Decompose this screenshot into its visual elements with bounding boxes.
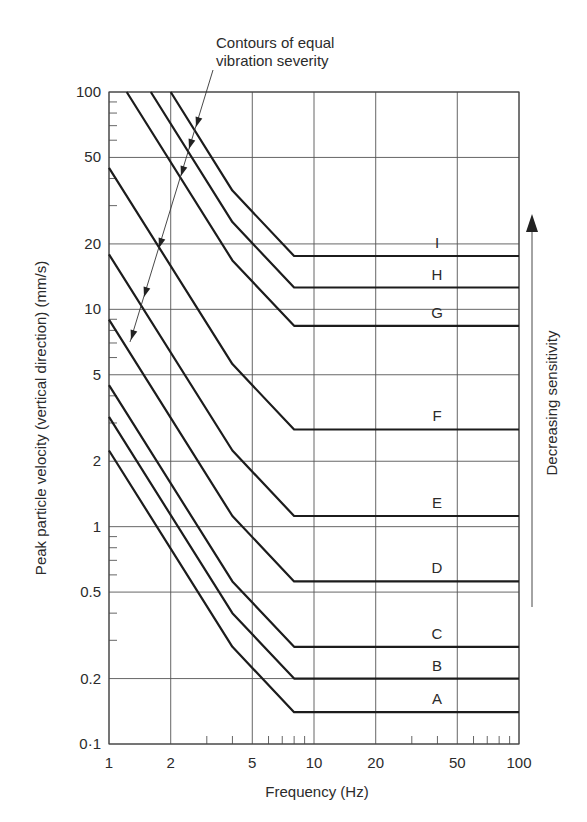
- contours-annotation: Contours of equal vibration severity: [130, 34, 334, 342]
- x-axis-title: Frequency (Hz): [265, 783, 368, 800]
- y-axis-tick-labels: 1005020105210.50.20·1: [76, 83, 101, 752]
- curve-labels: ABCDEFGHI: [431, 234, 443, 707]
- curve-h: [151, 92, 519, 288]
- y-tick-label: 2: [93, 452, 101, 469]
- y-tick-label: 0·1: [79, 735, 101, 752]
- arrowhead-icon: [181, 165, 188, 176]
- arrowhead-icon: [196, 116, 203, 127]
- y-tick-label: 20: [84, 235, 101, 252]
- x-tick-label: 50: [449, 754, 466, 771]
- x-axis-tick-labels: 125102050100: [105, 754, 532, 771]
- curve-label-g: G: [431, 304, 443, 321]
- sensitivity-label: Decreasing sensitivity: [543, 330, 560, 476]
- leader-line: [130, 70, 213, 342]
- y-tick-label: 10: [84, 300, 101, 317]
- arrowhead-icon: [189, 138, 196, 149]
- y-axis-title: Peak particle velocity (vertical directi…: [32, 261, 49, 575]
- curve-label-a: A: [432, 690, 442, 707]
- curve-label-i: I: [435, 234, 439, 251]
- x-tick-label: 100: [506, 754, 531, 771]
- vibration-severity-chart: 125102050100 1005020105210.50.20·1 ABCDE…: [0, 0, 587, 822]
- y-tick-label: 1: [93, 518, 101, 535]
- curve-label-b: B: [432, 657, 442, 674]
- arrowhead-icon: [159, 237, 166, 248]
- x-tick-label: 5: [248, 754, 256, 771]
- annotation-line-1: Contours of equal: [216, 34, 334, 51]
- curve-label-e: E: [432, 494, 442, 511]
- arrowhead-icon: [131, 329, 138, 340]
- curve-label-d: D: [432, 559, 443, 576]
- annotation-line-2: vibration severity: [216, 52, 329, 69]
- leader-arrows: [130, 70, 213, 342]
- curve-label-h: H: [432, 266, 443, 283]
- arrowhead-icon: [144, 286, 151, 297]
- y-tick-label: 100: [76, 83, 101, 100]
- x-tick-label: 2: [167, 754, 175, 771]
- decreasing-sensitivity-indicator: Decreasing sensitivity: [526, 214, 560, 607]
- y-tick-label: 5: [93, 366, 101, 383]
- y-tick-label: 0.2: [80, 670, 101, 687]
- x-tick-label: 20: [367, 754, 384, 771]
- curve-label-c: C: [432, 625, 443, 642]
- arrow-up-icon: [526, 214, 538, 232]
- y-tick-label: 0.5: [80, 583, 101, 600]
- curve-label-f: F: [432, 407, 441, 424]
- curve-i: [171, 92, 519, 256]
- y-tick-label: 50: [84, 148, 101, 165]
- x-tick-label: 1: [105, 754, 113, 771]
- x-tick-label: 10: [306, 754, 323, 771]
